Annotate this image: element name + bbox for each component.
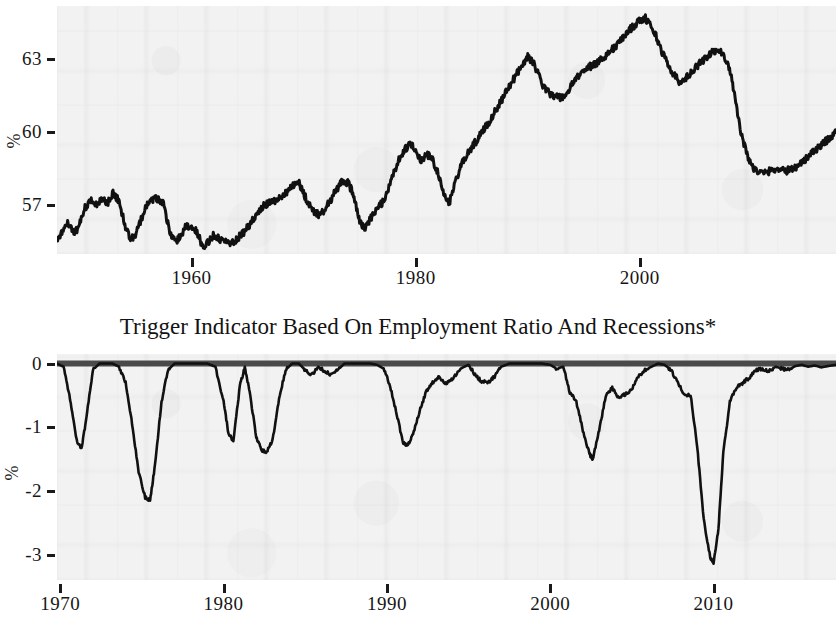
figure-container: % 576063 196019802000 Trigger Indicator … — [0, 0, 836, 624]
panel-title-trigger-indicator: Trigger Indicator Based On Employment Ra… — [0, 314, 836, 340]
data-series-employment-ratio — [57, 15, 836, 249]
y-tick-mark — [47, 554, 55, 557]
x-tick-label: 1970 — [20, 594, 100, 613]
y-tick-mark — [47, 426, 55, 429]
plot-area-trigger-indicator — [57, 354, 836, 580]
x-tick-mark — [713, 584, 716, 593]
x-tick-mark — [223, 584, 226, 593]
y-tick-mark — [47, 58, 55, 61]
plot-area-employment-ratio — [57, 6, 836, 254]
y-axis-title-bottom: % — [2, 441, 23, 481]
y-tick-label: -1 — [8, 417, 42, 436]
x-tick-mark — [639, 258, 642, 267]
x-tick-label: 2000 — [600, 268, 680, 287]
trigger-indicator-line — [57, 354, 836, 580]
panel-employment-ratio: % 576063 196019802000 — [0, 0, 836, 298]
x-tick-label: 2010 — [674, 594, 754, 613]
y-tick-label: -2 — [8, 481, 42, 500]
y-tick-mark — [47, 363, 55, 366]
panel-trigger-indicator: Trigger Indicator Based On Employment Ra… — [0, 300, 836, 624]
x-tick-label: 2000 — [510, 594, 590, 613]
y-tick-label: 57 — [8, 195, 42, 214]
y-tick-label: 0 — [8, 354, 42, 373]
x-tick-label: 1980 — [376, 268, 456, 287]
x-tick-label: 1960 — [152, 268, 232, 287]
y-tick-label: -3 — [8, 545, 42, 564]
employment-ratio-line — [57, 6, 836, 254]
x-tick-mark — [191, 258, 194, 267]
x-tick-mark — [386, 584, 389, 593]
y-tick-label: 63 — [8, 49, 42, 68]
data-series-trigger-indicator — [57, 364, 836, 564]
x-tick-label: 1980 — [184, 594, 264, 613]
x-tick-mark — [59, 584, 62, 593]
x-tick-mark — [549, 584, 552, 593]
x-tick-label: 1990 — [347, 594, 427, 613]
y-tick-mark — [47, 204, 55, 207]
y-tick-mark — [47, 131, 55, 134]
x-tick-mark — [415, 258, 418, 267]
y-tick-mark — [47, 490, 55, 493]
y-tick-label: 60 — [8, 122, 42, 141]
